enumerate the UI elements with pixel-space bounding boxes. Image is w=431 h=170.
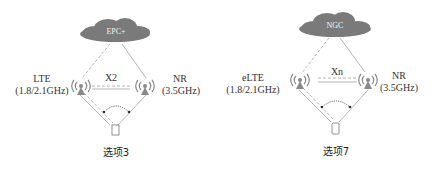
phone-icon xyxy=(332,123,339,134)
left-station-name: eLTE xyxy=(229,72,277,84)
handover-arrow-icon xyxy=(104,106,129,112)
interface-label: Xn xyxy=(322,66,352,77)
antenna-icon-nr xyxy=(359,74,378,89)
left-station-band: (1.8/2.1GHz) xyxy=(222,84,284,96)
nr-ue-link xyxy=(339,90,368,122)
antenna-icon-lte xyxy=(72,80,91,95)
right-station-name: NR xyxy=(160,73,200,85)
left-station-band: (1.8/2.1GHz) xyxy=(12,85,72,97)
right-station-name: NR xyxy=(381,70,417,82)
right-station-band: (3.5GHz) xyxy=(158,85,204,97)
interface-label: X2 xyxy=(96,72,126,83)
phone-icon xyxy=(112,125,119,135)
diagram-caption: 选项3 xyxy=(86,144,146,159)
core-label: EPC+ xyxy=(86,27,146,36)
antenna-icon-nr xyxy=(136,80,155,95)
right-station-band: (3.5GHz) xyxy=(376,82,422,94)
elte-ue-link xyxy=(299,90,331,122)
antenna-icon-elte xyxy=(291,74,310,89)
option3-diagram: EPC+ X2 LTE (1.8/2.1GHz) NR (3.5GHz) 选项3 xyxy=(0,0,215,170)
handover-arrow-icon xyxy=(322,101,350,107)
nr-ue-link xyxy=(118,95,146,125)
elte-ue-dashed-link xyxy=(303,88,334,120)
diagram-caption: 选项7 xyxy=(306,143,366,158)
core-label: NGC xyxy=(305,21,365,30)
lte-ue-dashed-link xyxy=(84,93,113,123)
left-station-name: LTE xyxy=(14,73,70,85)
lte-ue-link xyxy=(80,95,110,125)
option7-diagram: NGC Xn eLTE (1.8/2.1GHz) NR (3.5GHz) 选项7 xyxy=(215,0,430,170)
